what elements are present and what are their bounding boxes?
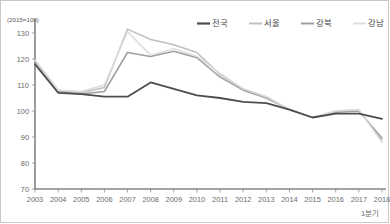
x-axis-tick-label: 2015 bbox=[304, 195, 320, 204]
chart-legend: 전국서울강북강남 bbox=[197, 18, 384, 28]
y-axis-unit-note: (2015=100) bbox=[7, 16, 39, 23]
legend-label-2: 강북 bbox=[316, 18, 332, 28]
x-axis-tick-label: 2006 bbox=[96, 195, 112, 204]
x-axis-tick-label: 2003 bbox=[27, 195, 43, 204]
x-axis-tick-label: 2009 bbox=[166, 195, 182, 204]
x-axis-tick-label: 2012 bbox=[235, 195, 251, 204]
legend-label-0: 전국 bbox=[212, 18, 228, 28]
legend-label-3: 강남 bbox=[368, 18, 384, 28]
x-axis-tick-label: 2007 bbox=[119, 195, 135, 204]
chart-canvas: 전국서울강북강남 708090100110120130 200320042005… bbox=[1, 1, 390, 224]
x-axis-tick-label: 2014 bbox=[281, 195, 297, 204]
y-axis-tick-label: 90 bbox=[21, 133, 29, 142]
data-series-group bbox=[35, 29, 382, 142]
x-axis-tick-label: 2013 bbox=[258, 195, 274, 204]
y-axis-tick-label: 120 bbox=[17, 55, 29, 64]
x-axis-tick-label: 2010 bbox=[189, 195, 205, 204]
series-line-1 bbox=[35, 29, 382, 141]
x-axis-tick-label: 2004 bbox=[50, 195, 66, 204]
y-axis-tick-label: 130 bbox=[17, 29, 29, 38]
x-axis-tick-label: 2011 bbox=[212, 195, 228, 204]
y-axis-tick-label: 70 bbox=[21, 185, 29, 194]
legend-label-1: 서울 bbox=[264, 18, 280, 28]
x-axis-tick-label: 2016 bbox=[328, 195, 344, 204]
series-line-3 bbox=[35, 32, 382, 143]
x-axis-sub-label: 1분기 bbox=[361, 209, 379, 218]
y-axis-tick-label: 110 bbox=[17, 81, 29, 90]
x-axis: 2003200420052006200720082009201020112012… bbox=[27, 189, 390, 204]
y-axis-tick-label: 100 bbox=[17, 107, 29, 116]
y-axis: 708090100110120130 bbox=[17, 19, 35, 194]
y-axis-tick-label: 80 bbox=[21, 159, 29, 168]
x-axis-tick-label: 2005 bbox=[73, 195, 89, 204]
x-axis-tick-label: 2018 bbox=[374, 195, 390, 204]
x-axis-tick-label: 2008 bbox=[142, 195, 158, 204]
x-axis-tick-label: 2017 bbox=[351, 195, 367, 204]
